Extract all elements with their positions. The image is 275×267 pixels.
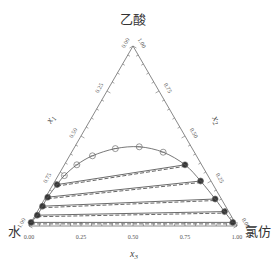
tick-left [76, 145, 78, 146]
tick-left [102, 100, 104, 101]
tick-left [112, 82, 114, 83]
tick-label-bottom: 1.00 [232, 234, 243, 240]
tick-label-left: 0.75 [42, 172, 52, 184]
tick-right [188, 145, 190, 146]
tick-left [97, 109, 99, 110]
tick-right [219, 199, 221, 200]
tie-line-experimental [43, 199, 216, 206]
axis-label-bottom: x3 [129, 248, 138, 261]
ternary-diagram: 0.000.250.500.751.000.000.250.500.751.00… [0, 0, 275, 267]
tick-right [214, 190, 216, 191]
tick-left [81, 136, 84, 138]
tick-label-right: 0.50 [189, 127, 199, 139]
axis-ticks: 0.000.250.500.751.000.000.250.500.751.00… [16, 37, 251, 240]
tick-left [91, 118, 93, 119]
tick-right [204, 172, 206, 173]
tie-lines [29, 162, 236, 224]
tick-right [208, 181, 211, 183]
tick-left [107, 91, 110, 93]
tick-label-left: 0.25 [94, 82, 104, 94]
tick-left [60, 172, 62, 173]
tick-right [156, 91, 159, 93]
tick-left [123, 64, 125, 65]
tick-left [128, 55, 130, 56]
tick-left [117, 73, 119, 74]
tick-right [141, 64, 143, 65]
tick-label-left: 0.00 [120, 37, 130, 49]
tick-label-left: 0.50 [68, 127, 78, 139]
tick-right [146, 73, 148, 74]
vertex-label-bottom-right: 氯仿 [245, 224, 271, 239]
axis-label-left: x1 [43, 113, 59, 127]
tick-label-bottom: 0.00 [24, 234, 35, 240]
tick-label-bottom: 0.25 [76, 234, 87, 240]
tie-line-calculated [43, 201, 216, 208]
tick-label-right: 0.25 [215, 172, 225, 184]
tick-label-right: 1.00 [137, 37, 147, 49]
tick-left [86, 127, 88, 128]
tick-right [198, 163, 200, 164]
tie-line-calculated [57, 166, 185, 186]
axis-label-right: x2 [208, 113, 224, 128]
vertex-label-top: 乙酸 [120, 12, 146, 27]
tick-left [50, 190, 52, 191]
tick-left [71, 154, 73, 155]
tick-label-right: 0.75 [163, 82, 173, 94]
tick-right [172, 118, 174, 119]
tick-label-bottom: 0.50 [128, 234, 139, 240]
tie-line-experimental [48, 181, 201, 197]
tick-label-bottom: 0.75 [180, 234, 191, 240]
binodal-line [31, 147, 233, 223]
tick-right [178, 127, 180, 128]
tick-right [152, 82, 154, 83]
vertex-label-bottom-left: 水 [8, 224, 21, 239]
tick-right [136, 55, 138, 56]
tick-right [167, 109, 169, 110]
tie-line-calculated [48, 183, 201, 199]
tick-right [193, 154, 195, 155]
tick-right [162, 100, 164, 101]
tick-right [182, 136, 185, 138]
tick-left [65, 163, 67, 164]
